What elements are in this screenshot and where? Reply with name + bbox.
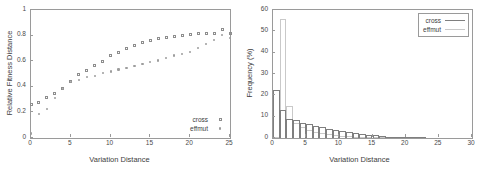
y-tick-mark: [272, 94, 275, 95]
data-point-effmut: [141, 63, 143, 65]
x-tick-label: 0: [262, 140, 282, 147]
chart-panel-left: Relative Fitness Distance crosseffmut Va…: [0, 0, 239, 168]
data-point-cross: [109, 54, 112, 57]
data-point-cross: [77, 73, 80, 76]
data-point-effmut: [149, 61, 151, 63]
histogram-bar-cross: [273, 90, 280, 138]
x-tick-label: 25: [428, 140, 448, 147]
y-tick-mark: [272, 30, 275, 31]
y-tick-mark: [30, 9, 33, 10]
data-point-cross: [229, 32, 232, 35]
data-point-effmut: [117, 68, 119, 70]
x-axis-title-left: Variation Distance: [0, 156, 239, 164]
data-point-cross: [149, 39, 152, 42]
data-point-effmut: [133, 65, 135, 67]
x-tick-mark: [110, 134, 111, 137]
legend-key-effmut: [215, 127, 225, 129]
y-tick-label: 10: [240, 112, 268, 119]
data-point-effmut: [78, 79, 80, 81]
y-tick-mark: [30, 86, 33, 87]
y-tick-mark: [30, 111, 33, 112]
x-tick-label: 15: [362, 140, 382, 147]
legend-left: crosseffmut: [190, 115, 225, 133]
figure-row: Relative Fitness Distance crosseffmut Va…: [0, 0, 479, 184]
data-point-cross: [125, 47, 128, 50]
y-tick-mark: [30, 35, 33, 36]
data-point-effmut: [205, 43, 207, 45]
y-tick-mark: [272, 73, 275, 74]
x-tick-mark: [305, 134, 306, 137]
data-point-cross: [205, 32, 208, 35]
x-tick-mark: [229, 134, 230, 137]
x-axis-title-right: Variation Distance: [240, 156, 479, 164]
data-point-effmut: [173, 54, 175, 56]
x-tick-mark: [438, 134, 439, 137]
data-point-cross: [197, 32, 200, 35]
data-point-cross: [53, 92, 56, 95]
x-tick-mark: [272, 134, 273, 137]
data-point-cross: [221, 28, 224, 31]
x-tick-label: 10: [328, 140, 348, 147]
histogram-bar-cross: [373, 135, 380, 138]
legend-entry-effmut: effmut: [190, 124, 225, 133]
y-tick-mark: [272, 9, 275, 10]
data-point-cross: [157, 37, 160, 40]
y-axis-title-left: Relative Fitness Distance: [6, 31, 14, 116]
legend-entry-cross: cross: [190, 115, 225, 124]
data-point-cross: [165, 36, 168, 39]
histogram-bar-cross: [412, 137, 419, 138]
x-tick-label: 20: [395, 140, 415, 147]
plot-area-right: crosseffmut: [272, 9, 473, 139]
histogram-bar-cross: [419, 137, 426, 138]
legend-marker-effmut: [219, 127, 221, 129]
data-point-effmut: [110, 70, 112, 72]
data-point-effmut: [62, 88, 64, 90]
data-point-effmut: [213, 39, 215, 41]
y-tick-mark: [30, 60, 33, 61]
data-point-effmut: [102, 72, 104, 74]
data-point-effmut: [197, 47, 199, 49]
x-tick-mark: [149, 134, 150, 137]
data-point-cross: [85, 69, 88, 72]
legend-right: crosseffmut: [418, 13, 469, 37]
histogram-bar-cross: [386, 137, 393, 138]
data-point-cross: [133, 44, 136, 47]
y-tick-label: 20: [240, 91, 268, 98]
data-point-effmut: [38, 113, 40, 115]
legend-key-cross: [215, 118, 225, 121]
data-point-effmut: [46, 108, 48, 110]
x-tick-label: 0: [20, 140, 40, 147]
data-point-effmut: [54, 97, 56, 99]
histogram-bar-cross: [306, 124, 313, 138]
histogram-bar-cross: [339, 131, 346, 138]
legend-line-effmut: [445, 29, 465, 30]
x-tick-label: 10: [100, 140, 120, 147]
histogram-bar-cross: [313, 126, 320, 138]
y-tick-label: 50: [240, 27, 268, 34]
y-tick-label: 30: [240, 70, 268, 77]
data-point-cross: [30, 103, 33, 106]
x-tick-label: 30: [461, 140, 479, 147]
histogram-bar-cross: [319, 127, 326, 138]
y-tick-label: 60: [240, 6, 268, 13]
x-tick-mark: [338, 134, 339, 137]
y-tick-mark: [30, 137, 33, 138]
legend-label-effmut: effmut: [190, 124, 208, 133]
legend-label-cross: cross: [192, 115, 208, 124]
y-tick-label: 40: [240, 48, 268, 55]
data-point-effmut: [125, 67, 127, 69]
data-point-cross: [189, 33, 192, 36]
data-point-cross: [141, 41, 144, 44]
y-tick-mark: [272, 52, 275, 53]
y-tick-label: 0.6: [0, 57, 26, 64]
data-point-cross: [181, 34, 184, 37]
data-point-effmut: [165, 57, 167, 59]
legend-label-cross: cross: [425, 16, 441, 25]
y-tick-mark: [272, 116, 275, 117]
data-point-effmut: [157, 59, 159, 61]
data-point-effmut: [181, 53, 183, 55]
legend-entry-effmut: effmut: [423, 25, 465, 34]
x-tick-label: 20: [179, 140, 199, 147]
histogram-bar-cross: [406, 137, 413, 138]
y-tick-label: 0.4: [0, 82, 26, 89]
